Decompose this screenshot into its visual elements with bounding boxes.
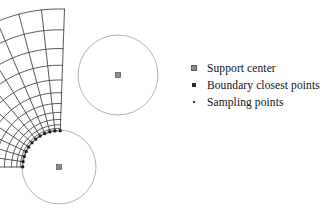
legend-item-boundary-closest-points: Boundary closest points xyxy=(186,77,331,93)
boundary-closest-points-marker xyxy=(186,83,202,87)
mesh-arc-line xyxy=(4,112,60,167)
mesh-arc-line xyxy=(20,128,60,167)
mesh-arc-line xyxy=(12,120,61,168)
boundary-closest-point xyxy=(27,146,29,148)
boundary-closest-point xyxy=(59,129,61,131)
boundary-closest-point xyxy=(31,141,33,143)
support-center-marker xyxy=(186,65,202,71)
boundary-closest-point xyxy=(22,160,24,162)
boundary-closest-point xyxy=(21,166,23,168)
mesh-radial-line xyxy=(0,22,45,134)
legend-item-sampling-points: Sampling points xyxy=(186,94,331,110)
support-center-layer xyxy=(56,72,120,169)
boundary-closest-point xyxy=(25,150,27,152)
boundary-closest-point xyxy=(39,135,41,137)
legend-label-boundary-closest-points: Boundary closest points xyxy=(202,78,320,92)
figure-container: Support center Boundary closest points S… xyxy=(0,0,333,208)
mesh-arc-line xyxy=(23,131,60,167)
sampling-points-marker xyxy=(186,101,202,103)
boundary-closest-point xyxy=(43,132,45,134)
boundary-closest-point xyxy=(49,130,51,132)
support-center xyxy=(115,72,120,77)
boundary-closest-point xyxy=(54,129,56,131)
legend-label-sampling-points: Sampling points xyxy=(202,95,284,109)
boundary-closest-point xyxy=(23,155,25,157)
support-center xyxy=(56,164,61,169)
boundary-closest-point xyxy=(34,138,36,140)
support-domain-circles xyxy=(22,35,158,204)
legend-label-support-center: Support center xyxy=(202,61,276,75)
legend-item-support-center: Support center xyxy=(186,60,331,76)
legend: Support center Boundary closest points S… xyxy=(186,60,331,111)
